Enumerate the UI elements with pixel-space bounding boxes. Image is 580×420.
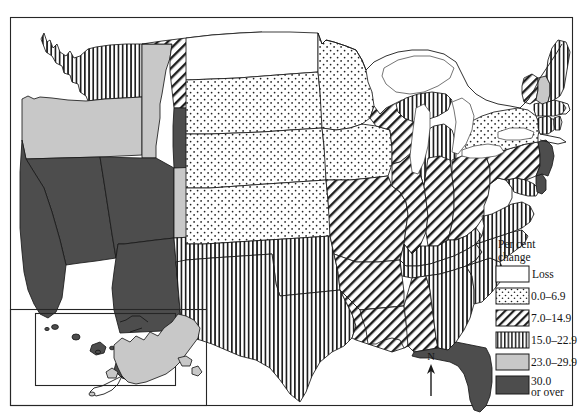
state-delaware[interactable]	[536, 174, 546, 194]
legend-item-0-6-9[interactable]: 0.0–6.9	[496, 288, 566, 304]
state-kansas[interactable]	[186, 180, 330, 244]
legend-swatch-loss	[496, 266, 529, 282]
legend-label-23-29-9: 23.0–29.9	[531, 356, 577, 368]
legend-swatch-15-22-9	[496, 332, 529, 348]
legend-item-7-14-9[interactable]: 7.0–14.9	[496, 310, 572, 326]
legend-label-7-14-9: 7.0–14.9	[531, 312, 572, 324]
north-arrow-label: N	[427, 351, 435, 362]
state-rhode-island[interactable]	[554, 116, 562, 130]
legend-swatch-0-6-9	[496, 288, 529, 304]
legend-swatch-23-29-9	[496, 354, 529, 370]
state-vermont[interactable]	[522, 74, 538, 104]
legend-label-30-line2: or over	[531, 386, 564, 398]
legend-item-15-22-9[interactable]: 15.0–22.9	[496, 332, 577, 348]
legend-label-15-22-9: 15.0–22.9	[531, 334, 577, 346]
legend-label-0-6-9: 0.0–6.9	[531, 290, 566, 302]
legend-swatch-7-14-9	[496, 310, 529, 326]
legend-item-loss[interactable]: Loss	[496, 266, 554, 282]
legend-label-loss: Loss	[532, 268, 554, 280]
state-south-dakota[interactable]	[186, 72, 322, 134]
state-iowa[interactable]	[322, 124, 392, 180]
us-choropleth-map: N Per cent change Loss 0.0–6.9 7.0–14.9 …	[0, 0, 580, 420]
state-oregon[interactable]	[22, 96, 142, 159]
state-connecticut[interactable]	[538, 116, 554, 134]
state-nebraska[interactable]	[186, 128, 326, 188]
state-north-dakota[interactable]	[186, 32, 318, 80]
legend-swatch-30-or-over	[496, 376, 529, 394]
legend-title-line1: Per cent	[498, 238, 536, 250]
map-figure: N Per cent change Loss 0.0–6.9 7.0–14.9 …	[0, 0, 580, 420]
state-arizona[interactable]	[112, 238, 182, 333]
legend-title-line2: change	[498, 251, 531, 264]
legend-item-23-29-9[interactable]: 23.0–29.9	[496, 354, 577, 370]
